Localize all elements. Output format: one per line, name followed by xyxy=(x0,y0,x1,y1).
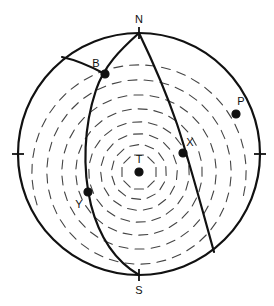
hatch-dash xyxy=(121,219,130,221)
hatch-dash xyxy=(151,246,160,248)
hatch-dash xyxy=(76,176,77,185)
hatch-dash xyxy=(128,80,137,81)
hatch-dash xyxy=(118,96,127,98)
hatch-dash xyxy=(191,79,199,84)
point-y-label: Y xyxy=(75,199,82,210)
hatch-dash xyxy=(64,144,67,153)
hatch-dash xyxy=(33,149,35,158)
hatch-dash xyxy=(211,143,214,152)
hatch-dash xyxy=(123,233,132,235)
hatch-dash xyxy=(78,117,84,124)
hatch-dash xyxy=(175,87,183,91)
hatch-dash xyxy=(211,191,214,200)
radial-tick-hatching xyxy=(32,65,246,264)
hatch-dash xyxy=(84,76,92,80)
point-p-marker[interactable] xyxy=(232,110,240,118)
hatch-dash xyxy=(70,130,74,138)
point-x-marker[interactable] xyxy=(179,149,187,157)
hatch-dash xyxy=(204,206,208,214)
hatch-dash xyxy=(109,259,118,261)
point-p-label: P xyxy=(237,96,244,107)
hatch-dash xyxy=(81,244,88,249)
hatch-dash xyxy=(181,231,188,236)
hatch-dash xyxy=(42,119,46,127)
hatch-dash xyxy=(186,181,188,190)
hatch-dash xyxy=(166,209,173,215)
hatch-dash xyxy=(86,206,91,213)
hatch-dash xyxy=(76,160,77,169)
hatch-dash xyxy=(230,177,231,186)
hatch-dash xyxy=(124,181,130,187)
hatch-dash xyxy=(227,145,229,154)
hatch-dash xyxy=(145,145,153,148)
hatch-dash xyxy=(62,176,63,185)
stereonet-figure: NSBPXTY xyxy=(0,0,274,306)
hatch-dash xyxy=(104,188,109,196)
hatch-dash xyxy=(112,176,115,185)
hatch-dash xyxy=(221,130,225,138)
hatch-dash xyxy=(70,207,75,215)
hatch-dash xyxy=(101,172,102,181)
hatch-dash xyxy=(107,144,113,151)
hatch-dash xyxy=(170,186,174,194)
hatch-dash xyxy=(177,72,185,76)
point-n-label: N xyxy=(135,14,143,25)
hatch-dash xyxy=(125,263,134,264)
hatch-dash xyxy=(95,140,100,147)
hatch-dash xyxy=(72,103,78,109)
hatch-dash xyxy=(150,96,159,98)
hatch-dash xyxy=(215,175,216,184)
hatch-dash xyxy=(226,193,228,202)
hatch-dash xyxy=(230,161,231,170)
hatch-dash xyxy=(158,199,165,204)
hatch-dash xyxy=(132,198,141,199)
point-y-marker[interactable] xyxy=(84,188,92,196)
hatch-dash xyxy=(159,153,164,160)
hatch-dash xyxy=(163,128,170,133)
hatch-dash xyxy=(119,136,127,140)
hatch-dash xyxy=(91,232,98,237)
hatch-dash xyxy=(155,230,164,233)
hatch-dash xyxy=(217,98,223,105)
hatch-dash xyxy=(60,94,66,100)
hatch-dash xyxy=(194,220,200,227)
hatch-dash xyxy=(243,187,245,196)
hatch-dash xyxy=(180,107,187,112)
hatch-dash xyxy=(84,93,91,98)
hatch-dash xyxy=(119,247,128,249)
hatch-dash xyxy=(144,80,153,81)
hatch-dash xyxy=(193,117,199,124)
hatch-dash xyxy=(130,145,139,147)
hatch-dash xyxy=(49,190,51,199)
hatch-dash xyxy=(176,138,182,145)
hatch-dash xyxy=(162,67,171,69)
hatch-dash xyxy=(148,157,154,163)
hatch-dash xyxy=(215,159,216,168)
hatch-dash xyxy=(172,254,180,258)
hatch-dash xyxy=(79,221,85,228)
hatch-dash xyxy=(139,235,148,236)
hatch-dash xyxy=(148,181,154,187)
hatch-dash xyxy=(71,84,78,89)
hatch-dash xyxy=(53,205,57,213)
point-b-label: B xyxy=(92,58,99,69)
hatch-dash xyxy=(182,125,188,132)
hatch-dash xyxy=(117,149,124,155)
point-b-marker[interactable] xyxy=(101,70,109,78)
hatch-dash xyxy=(199,152,201,161)
hatch-dash xyxy=(112,161,114,170)
hatch-dash xyxy=(36,133,39,142)
hatch-dash xyxy=(79,145,82,153)
hatch-dash xyxy=(90,154,92,163)
hatch-dash xyxy=(154,111,163,114)
hatch-dash xyxy=(95,253,103,257)
point-t-marker[interactable] xyxy=(135,168,143,176)
hatch-dash xyxy=(147,194,155,198)
hatch-dash xyxy=(241,139,243,148)
hatch-dash xyxy=(157,260,166,262)
hatch-dash xyxy=(107,211,114,216)
hatch-dash xyxy=(143,208,152,210)
hatch-dash xyxy=(187,246,194,251)
hatch-dash xyxy=(112,82,121,84)
hatch-dash xyxy=(220,208,224,216)
